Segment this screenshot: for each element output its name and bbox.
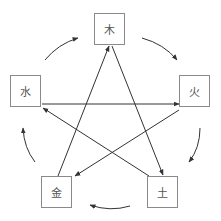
node-wood-label: 木 bbox=[104, 21, 115, 37]
node-metal-label: 金 bbox=[51, 184, 62, 200]
arrow-wood-to-earth bbox=[112, 46, 163, 175]
arrow-earth-to-water bbox=[43, 108, 149, 176]
arrow-metal-to-wood bbox=[58, 46, 109, 176]
node-metal: 金 bbox=[41, 176, 72, 208]
node-fire: 火 bbox=[179, 75, 210, 107]
five-elements-diagram: 木 火 土 金 水 bbox=[0, 0, 221, 221]
node-earth-label: 土 bbox=[157, 184, 168, 200]
arrow-fire-to-metal bbox=[75, 110, 179, 176]
arrow-wood-to-fire bbox=[142, 38, 177, 60]
arrow-water-to-wood bbox=[45, 38, 78, 60]
node-water: 水 bbox=[10, 75, 41, 107]
node-water-label: 水 bbox=[20, 83, 31, 99]
node-fire-label: 火 bbox=[189, 83, 200, 99]
arrow-fire-to-earth bbox=[189, 128, 200, 162]
node-wood: 木 bbox=[94, 13, 125, 45]
arrow-earth-to-metal bbox=[90, 205, 130, 209]
node-earth: 土 bbox=[147, 176, 178, 208]
arrow-metal-to-water bbox=[23, 128, 35, 162]
